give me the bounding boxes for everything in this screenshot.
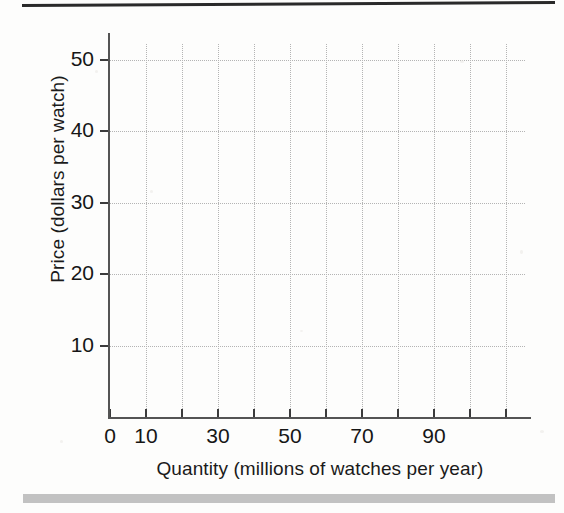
gridline-horizontal — [110, 203, 525, 204]
x-axis-line — [108, 417, 531, 419]
gridline-vertical — [182, 44, 183, 413]
gridline-vertical — [362, 44, 363, 413]
y-axis-tick-label: 10 — [48, 333, 94, 357]
gridline-horizontal — [110, 274, 525, 275]
paper-speckle — [150, 190, 153, 193]
gridline-vertical — [398, 44, 399, 413]
gridline-vertical — [506, 44, 507, 413]
gridline-vertical — [290, 44, 291, 413]
paper-speckle — [460, 60, 464, 63]
figure-page: 010305070901020304050 Price (dollars per… — [0, 0, 564, 513]
x-axis-title: Quantity (millions of watches per year) — [110, 458, 530, 480]
gridline-vertical — [254, 44, 255, 413]
gridline-horizontal — [110, 346, 525, 347]
x-axis-tick-label: 70 — [340, 424, 384, 448]
paper-speckle — [60, 440, 63, 443]
y-axis-line — [108, 33, 110, 418]
paper-speckle — [520, 250, 523, 254]
paper-speckle — [95, 70, 98, 73]
x-axis-tick-label: 10 — [124, 424, 168, 448]
bottom-gray-bar — [23, 494, 555, 503]
gridline-vertical — [218, 44, 219, 413]
paper-speckle — [300, 330, 303, 332]
plot-area: 010305070901020304050 — [0, 0, 564, 513]
paper-speckle — [540, 430, 544, 433]
gridline-vertical — [470, 44, 471, 413]
x-axis-tick-label: 50 — [268, 424, 312, 448]
y-axis-title: Price (dollars per watch) — [47, 44, 69, 314]
gridline-vertical — [146, 44, 147, 413]
gridline-vertical — [434, 44, 435, 413]
x-axis-tick-label: 90 — [412, 424, 456, 448]
x-axis-tick-label: 30 — [196, 424, 240, 448]
gridline-vertical — [326, 44, 327, 413]
gridline-horizontal — [110, 131, 525, 132]
